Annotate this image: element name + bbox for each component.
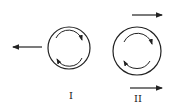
rotation-arrow-bottom-ii <box>124 61 150 69</box>
label-i: I <box>69 90 73 101</box>
circle-ii <box>113 27 161 75</box>
circle-i <box>48 27 90 69</box>
figure-i <box>13 27 90 69</box>
label-ii: II <box>134 93 142 104</box>
rotation-arrow-bottom-i <box>57 58 82 66</box>
rotation-arrow-top-ii <box>124 33 152 44</box>
diagram-canvas <box>0 0 177 107</box>
rotation-arrow-top-i <box>56 30 82 40</box>
figure-ii <box>113 15 162 88</box>
